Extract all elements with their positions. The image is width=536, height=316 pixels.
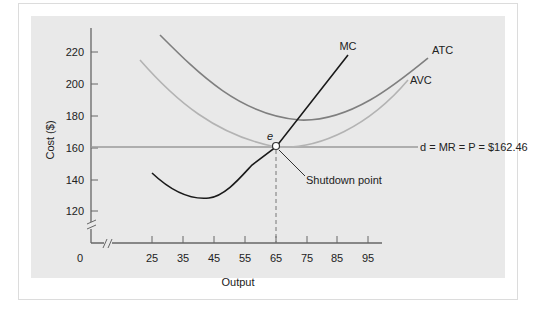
point-e-label: e: [267, 130, 273, 142]
atc-label: ATC: [432, 44, 453, 56]
x-tick-95: 95: [362, 252, 374, 264]
x-tick-75: 75: [301, 252, 313, 264]
y-axis-title: Cost ($): [44, 120, 56, 159]
demand-label: d = MR = P = $162.46: [420, 141, 528, 153]
x-tick-35: 35: [177, 252, 189, 264]
mc-label: MC: [339, 40, 356, 52]
atc-curve: [160, 35, 428, 120]
x-tick-55: 55: [239, 252, 251, 264]
y-ticks: [91, 52, 98, 211]
point-e-marker: [273, 143, 280, 150]
y-tick-200: 200: [66, 78, 84, 90]
shutdown-point-label: Shutdown point: [306, 174, 382, 186]
y-tick-140: 140: [66, 174, 84, 186]
cost-curves-chart: 220 200 180 160 140 120 0 25 35 45 55 65…: [0, 0, 536, 316]
x-axis-title: Output: [221, 276, 254, 288]
x-tick-85: 85: [331, 252, 343, 264]
y-tick-160: 160: [66, 142, 84, 154]
avc-curve: [140, 60, 408, 147]
y-tick-120: 120: [66, 205, 84, 217]
x-tick-65: 65: [270, 252, 282, 264]
x-ticks: [152, 236, 368, 243]
x-tick-45: 45: [208, 252, 220, 264]
shutdown-leader-line: [279, 150, 305, 176]
x-tick-0: 0: [77, 252, 83, 264]
x-tick-25: 25: [146, 252, 158, 264]
y-tick-220: 220: [66, 46, 84, 58]
avc-label: AVC: [410, 74, 432, 86]
x-axis-break-icon: [103, 238, 112, 248]
y-tick-180: 180: [66, 110, 84, 122]
